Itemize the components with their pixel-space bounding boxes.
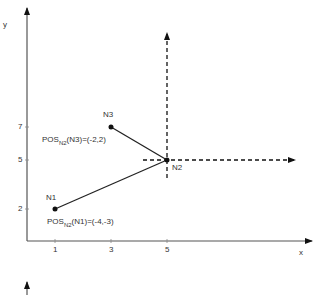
annotation-subscript: N2 — [59, 140, 67, 146]
node-n1 — [53, 207, 58, 212]
annotation-prefix: POS — [47, 217, 64, 226]
annotation-pos-n3: POSN2(N3)=(-2,2) — [42, 136, 106, 144]
edge-n1-n2 — [55, 160, 167, 209]
y-tick-label-2: 2 — [18, 205, 22, 213]
diagram-canvas — [0, 0, 318, 295]
annotation-value: (N3)=(-2,2) — [67, 135, 106, 144]
y-axis-label: y — [3, 21, 7, 29]
x-axis-label: x — [299, 249, 303, 257]
node-n2 — [165, 158, 170, 163]
annotation-prefix: POS — [42, 135, 59, 144]
annotation-subscript: N2 — [64, 222, 72, 228]
x-tick-label-3: 3 — [109, 246, 113, 254]
y-tick-label-7: 7 — [18, 123, 22, 131]
annotation-value: (N1)=(-4,-3) — [72, 217, 114, 226]
x-tick-label-5: 5 — [165, 246, 169, 254]
edge-n3-n2 — [111, 127, 167, 160]
x-tick-label-1: 1 — [53, 246, 57, 254]
node-label-n3: N3 — [103, 111, 113, 119]
node-label-n2: N2 — [172, 164, 182, 172]
annotation-pos-n1: POSN2(N1)=(-4,-3) — [47, 218, 114, 226]
y-tick-label-5: 5 — [18, 156, 22, 164]
node-n3 — [109, 125, 114, 130]
node-label-n1: N1 — [46, 194, 56, 202]
